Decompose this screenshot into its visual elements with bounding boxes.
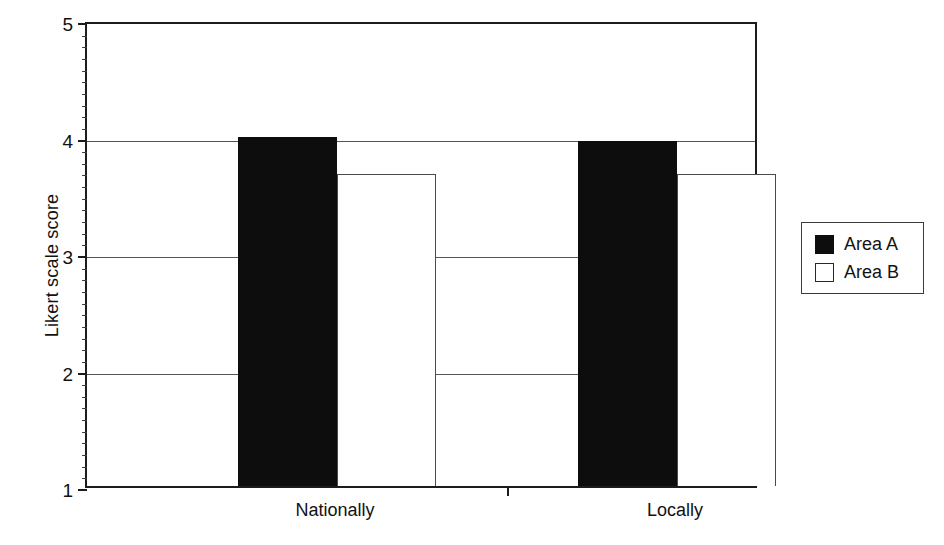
y-axis-minor-tick: [82, 467, 87, 468]
y-axis-major-tick: [78, 23, 87, 25]
x-axis-group-tick: [507, 486, 509, 496]
chart-legend: Area A Area B: [801, 222, 924, 294]
y-axis-minor-tick: [82, 210, 87, 211]
legend-label-area-b: Area B: [844, 262, 899, 283]
y-axis-tick-label: 3: [62, 248, 73, 267]
bar-area-b-nationally: [337, 174, 436, 486]
y-axis-minor-tick: [82, 164, 87, 165]
legend-item-area-a: Area A: [815, 230, 923, 258]
y-axis-minor-tick: [82, 36, 87, 37]
y-axis-minor-tick: [82, 315, 87, 316]
y-axis-minor-tick: [82, 408, 87, 409]
bar-area-a-locally: [578, 141, 677, 486]
y-axis-minor-tick: [82, 420, 87, 421]
y-axis-tick-label: 4: [62, 131, 73, 150]
y-axis-minor-tick: [82, 245, 87, 246]
y-axis-minor-tick: [82, 304, 87, 305]
y-axis-minor-tick: [82, 280, 87, 281]
y-axis-minor-tick: [82, 71, 87, 72]
x-axis-category-label-nationally: Nationally: [295, 500, 374, 521]
y-axis-major-tick: [78, 489, 87, 491]
x-axis-category-label-locally: Locally: [647, 500, 703, 521]
legend-swatch-filled-square-icon: [815, 235, 834, 254]
y-axis-minor-tick: [82, 397, 87, 398]
y-axis-minor-tick: [82, 94, 87, 95]
y-axis-tick-label: 1: [62, 481, 73, 500]
y-axis-minor-tick: [82, 327, 87, 328]
bar-chart: Likert scale score 12345 NationallyLocal…: [0, 0, 944, 545]
y-axis-minor-tick: [82, 152, 87, 153]
y-axis-minor-tick: [82, 82, 87, 83]
y-axis-minor-tick: [82, 187, 87, 188]
y-axis-minor-tick: [82, 59, 87, 60]
legend-swatch-outlined-square-icon: [815, 263, 834, 282]
y-axis-minor-tick: [82, 106, 87, 107]
y-axis-major-tick: [78, 373, 87, 375]
y-axis-minor-tick: [82, 222, 87, 223]
plot-area: 12345: [85, 22, 757, 488]
y-axis-minor-tick: [82, 269, 87, 270]
y-axis-minor-tick: [82, 339, 87, 340]
y-axis-minor-tick: [82, 47, 87, 48]
y-axis-major-tick: [78, 140, 87, 142]
bar-area-a-nationally: [238, 137, 337, 487]
y-axis-minor-tick: [82, 478, 87, 479]
y-axis-minor-tick: [82, 129, 87, 130]
y-axis-minor-tick: [82, 455, 87, 456]
y-axis-minor-tick: [82, 175, 87, 176]
y-axis-minor-tick: [82, 117, 87, 118]
y-axis-minor-tick: [82, 432, 87, 433]
bar-area-b-locally: [677, 174, 776, 486]
y-axis-minor-tick: [82, 199, 87, 200]
y-axis-tick-label: 5: [62, 15, 73, 34]
y-axis-minor-tick: [82, 443, 87, 444]
y-axis-tick-label: 2: [62, 364, 73, 383]
y-axis-major-tick: [78, 256, 87, 258]
legend-item-area-b: Area B: [815, 258, 923, 286]
y-axis-minor-tick: [82, 292, 87, 293]
y-axis-minor-tick: [82, 234, 87, 235]
y-axis-minor-tick: [82, 362, 87, 363]
y-axis-title: Likert scale score: [42, 136, 63, 396]
y-axis-minor-tick: [82, 350, 87, 351]
y-axis-minor-tick: [82, 385, 87, 386]
legend-label-area-a: Area A: [844, 234, 898, 255]
